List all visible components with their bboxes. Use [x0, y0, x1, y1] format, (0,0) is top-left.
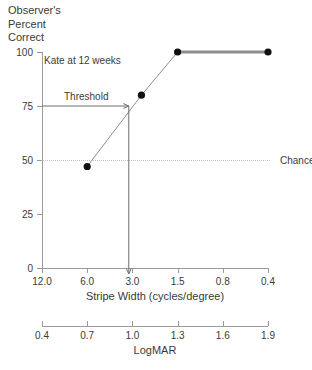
logmar-tick [223, 321, 224, 326]
logmar-tick [87, 321, 88, 326]
y-tick-label: 100 [3, 47, 33, 58]
data-point [84, 163, 91, 170]
x-tick [42, 268, 43, 273]
x-tick-label: 1.5 [171, 276, 185, 287]
chance-label: Chance [280, 155, 312, 166]
logmar-tick-label: 1.6 [216, 330, 230, 341]
threshold-horizontal-arrow [42, 104, 129, 109]
x-tick [223, 268, 224, 273]
x-tick [132, 268, 133, 273]
threshold-vertical-arrow [126, 106, 131, 274]
x-tick-label: 0.8 [216, 276, 230, 287]
x-tick-label: 3.0 [125, 276, 139, 287]
x-tick-label: 6.0 [80, 276, 94, 287]
x-tick [87, 268, 88, 273]
x-tick [178, 268, 179, 273]
y-tick-label: 0 [3, 263, 33, 274]
curve-segment [141, 52, 177, 95]
logmar-tick-label: 0.4 [35, 330, 49, 341]
logmar-axis-title: LogMAR [42, 344, 268, 356]
y-tick-label: 50 [3, 155, 33, 166]
data-series-layer [42, 52, 268, 268]
logmar-tick-label: 0.7 [80, 330, 94, 341]
chart-canvas: Observer's Percent Correct 0255075100 12… [0, 0, 312, 370]
x-axis-line [42, 268, 268, 269]
logmar-axis-line [42, 326, 268, 327]
data-point [264, 48, 271, 55]
logmar-tick-label: 1.9 [261, 330, 275, 341]
logmar-tick [178, 321, 179, 326]
logmar-tick [268, 321, 269, 326]
y-tick-label: 25 [3, 209, 33, 220]
data-point [138, 92, 145, 99]
x-tick-label: 12.0 [32, 276, 51, 287]
x-tick-label: 0.4 [261, 276, 275, 287]
x-axis-title: Stripe Width (cycles/degree) [42, 290, 268, 302]
y-tick-label: 75 [3, 101, 33, 112]
logmar-tick [42, 321, 43, 326]
logmar-tick-label: 1.0 [125, 330, 139, 341]
y-axis-caption: Observer's Percent Correct [8, 4, 61, 45]
logmar-tick [132, 321, 133, 326]
data-point [174, 48, 181, 55]
logmar-tick-label: 1.3 [171, 330, 185, 341]
x-tick [268, 268, 269, 273]
plot-area: 0255075100 12.06.03.01.50.80.4 Chance Th… [42, 52, 268, 268]
